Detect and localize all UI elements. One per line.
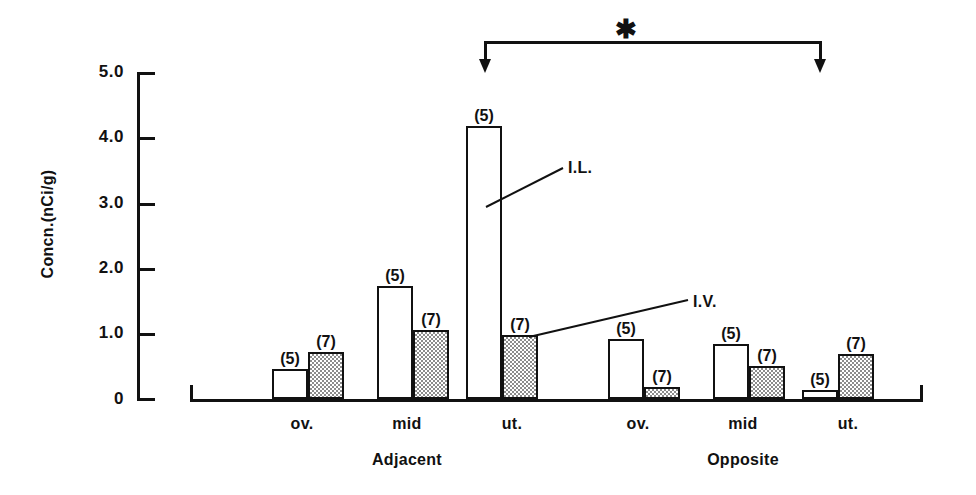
bar-count-label: (7): [421, 312, 441, 328]
bar-count-label: (7): [846, 336, 866, 352]
bar-count-label: (5): [810, 372, 830, 388]
annotation-iv-label: I.V.: [693, 294, 717, 310]
category-label-opposite-ov: ov.: [627, 416, 650, 432]
bar-count-label: (7): [652, 369, 672, 385]
significance-bracket-bar: [484, 41, 822, 44]
bar-count-label: (7): [316, 334, 336, 350]
category-label-adjacent-ut: ut.: [502, 416, 522, 432]
bar-adjacent-ut-il: (5): [466, 126, 502, 399]
y-axis-tick-2: [137, 268, 155, 271]
category-label-opposite-ut: ut.: [838, 416, 858, 432]
significance-arrow-right-icon: [814, 59, 826, 73]
bar-chart-figure: 5.0 4.0 3.0 2.0 1.0 0 Concn.(nCi/g) (5) …: [0, 0, 976, 495]
significance-arrow-left-icon: [479, 59, 491, 73]
bar-opposite-ov-iv: (7): [644, 387, 680, 399]
bar-opposite-ut-il: (5): [802, 390, 838, 399]
bar-count-label: (7): [510, 317, 530, 333]
group-label-opposite: Opposite: [707, 452, 779, 468]
bar-opposite-mid-il: (5): [713, 344, 749, 399]
bar-count-label: (5): [721, 326, 741, 342]
bar-opposite-ov-il: (5): [608, 339, 644, 399]
category-label-adjacent-ov: ov.: [291, 416, 314, 432]
y-axis-label-4: 4.0: [78, 128, 124, 145]
bar-opposite-mid-iv: (7): [749, 366, 785, 399]
bar-count-label: (5): [385, 268, 405, 284]
bar-adjacent-ut-iv: (7): [502, 335, 538, 399]
x-axis-line: [190, 399, 923, 402]
y-axis-tick-0: [137, 398, 155, 401]
bar-count-label: (5): [474, 108, 494, 124]
category-label-opposite-mid: mid: [728, 416, 757, 432]
y-axis-label-1: 1.0: [78, 324, 124, 341]
group-label-adjacent: Adjacent: [372, 452, 442, 468]
y-axis-label-5: 5.0: [78, 63, 124, 80]
bar-adjacent-ov-il: (5): [272, 369, 308, 399]
bar-adjacent-mid-il: (5): [377, 286, 413, 399]
bar-count-label: (7): [757, 348, 777, 364]
y-axis-line: [137, 72, 140, 400]
annotation-il-label: I.L.: [568, 160, 592, 176]
bar-adjacent-mid-iv: (7): [413, 330, 449, 399]
x-axis-left-cap: [190, 385, 193, 402]
y-axis-tick-1: [137, 333, 155, 336]
bar-adjacent-ov-iv: (7): [308, 352, 344, 399]
significance-asterisk: ✱: [615, 16, 637, 42]
y-axis-tick-4: [137, 137, 155, 140]
y-axis-tick-5: [137, 72, 155, 75]
y-axis-tick-3: [137, 203, 155, 206]
bar-opposite-ut-iv: (7): [838, 354, 874, 399]
y-axis-label-3: 3.0: [78, 194, 124, 211]
y-axis-title: Concn.(nCi/g): [39, 124, 57, 324]
y-axis-label-0: 0: [78, 390, 124, 407]
category-label-adjacent-mid: mid: [392, 416, 421, 432]
y-axis-label-2: 2.0: [78, 259, 124, 276]
x-axis-right-cap: [920, 385, 923, 402]
bar-count-label: (5): [616, 321, 636, 337]
bar-count-label: (5): [280, 351, 300, 367]
